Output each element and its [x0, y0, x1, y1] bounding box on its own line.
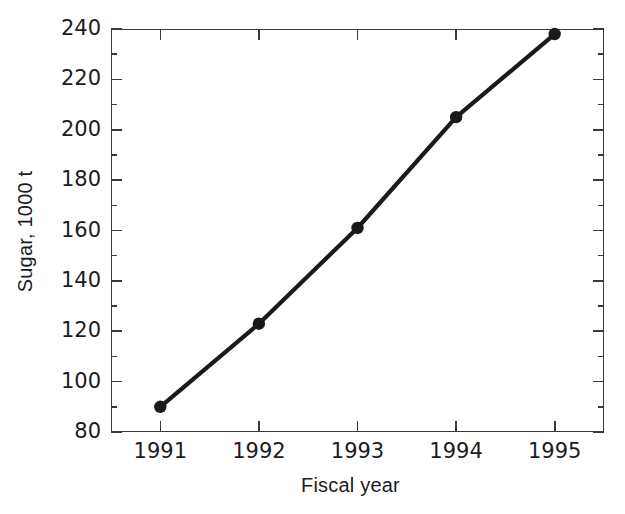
- x-axis-title-text: Fiscal year: [301, 474, 400, 497]
- data-point-marker: 1993: 161: [351, 222, 363, 234]
- series-line-sugar: [160, 34, 554, 407]
- data-point-marker: 1992: 123: [253, 317, 265, 329]
- data-point-marker: 1995: 238: [549, 28, 561, 40]
- y-axis-title: Sugar, 1000 t: [6, 0, 46, 462]
- data-point-marker: 1994: 205: [450, 111, 462, 123]
- x-axis-title: Fiscal year: [0, 474, 625, 497]
- y-axis-title-text: Sugar, 1000 t: [15, 170, 38, 292]
- data-point-marker: 1991: 90: [154, 401, 166, 413]
- data-series-layer: 1991: 901992: 1231993: 1611994: 2051995:…: [0, 0, 625, 514]
- chart-figure: 80100120140160180200220240 1991199219931…: [0, 0, 625, 514]
